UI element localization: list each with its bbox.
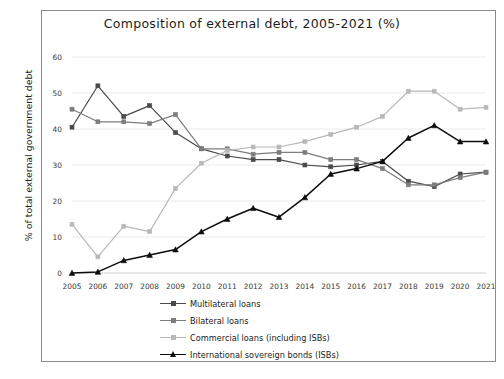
series-3 [70,89,488,259]
x-tick-label: 2021 [477,282,496,291]
legend-item-3[interactable]: Commercial loans (including ISBs) [160,331,339,344]
legend-marker-icon [160,298,186,309]
legend-label: Commercial loans (including ISBs) [190,333,330,343]
data-point [225,149,229,153]
y-tick-label: 20 [53,197,63,206]
x-axis-ticks: 2005200620072008200920102011201220132014… [63,282,496,291]
legend-marker-icon [160,315,186,326]
y-tick-label: 50 [53,89,63,98]
x-tick-label: 2017 [373,282,392,291]
data-point [250,205,256,210]
data-point [431,123,437,128]
data-point [148,104,152,108]
data-point [277,158,281,162]
data-point [432,89,436,93]
legend-label: Multilateral loans [190,299,261,309]
data-point [303,163,307,167]
data-point [329,165,333,169]
y-tick-label: 10 [53,233,63,242]
data-point [70,125,74,129]
data-point [329,158,333,162]
data-point [174,131,178,135]
data-point [96,84,100,88]
data-point [406,89,410,93]
legend-item-2[interactable]: Bilateral loans [160,314,339,327]
x-tick-label: 2016 [347,282,366,291]
legend-marker-icon [160,332,186,343]
legend-marker-icon [160,349,186,360]
data-point [70,107,74,111]
data-point [458,176,462,180]
data-point [329,132,333,136]
x-tick-label: 2011 [218,282,237,291]
data-point [406,183,410,187]
data-point [225,154,229,158]
data-point [251,145,255,149]
y-axis-ticks: 0102030405060 [53,53,63,278]
x-tick-label: 2013 [270,282,289,291]
data-point [355,125,359,129]
data-point [303,140,307,144]
data-point [96,255,100,259]
series-1 [70,84,488,189]
x-tick-label: 2015 [321,282,340,291]
data-point [458,107,462,111]
x-tick-label: 2019 [425,282,444,291]
data-point [122,120,126,124]
series-line [72,86,486,187]
data-point [174,186,178,190]
legend-label: Bilateral loans [190,316,248,326]
legend-item-1[interactable]: Multilateral loans [160,297,339,310]
data-point [355,158,359,162]
y-tick-label: 30 [53,161,63,170]
data-point [381,167,385,171]
x-tick-label: 2008 [140,282,159,291]
x-tick-label: 2014 [295,282,314,291]
legend-item-4[interactable]: International sovereign bonds (ISBs) [160,348,339,361]
data-point [303,150,307,154]
data-point [251,158,255,162]
data-point [148,122,152,126]
data-point [277,145,281,149]
x-tick-label: 2005 [63,282,82,291]
data-point [148,230,152,234]
gridlines [72,57,486,273]
data-point [122,224,126,228]
chart-legend: Multilateral loansBilateral loansCommerc… [160,297,339,361]
legend-label: International sovereign bonds (ISBs) [190,350,339,360]
data-point [277,150,281,154]
data-point [432,183,436,187]
x-tick-label: 2009 [166,282,185,291]
data-series-layer [69,84,489,276]
data-point [381,114,385,118]
data-point [174,113,178,117]
data-point [199,161,203,165]
data-point [70,222,74,226]
data-point [484,170,488,174]
x-tick-label: 2020 [451,282,470,291]
data-point [96,120,100,124]
x-tick-label: 2012 [244,282,263,291]
x-tick-label: 2007 [114,282,133,291]
series-line [72,91,486,257]
data-point [484,105,488,109]
y-tick-label: 60 [53,53,63,62]
data-point [199,147,203,151]
data-point [251,152,255,156]
x-tick-label: 2006 [88,282,107,291]
data-point [122,114,126,118]
y-tick-label: 40 [53,125,63,134]
x-tick-label: 2010 [192,282,211,291]
x-tick-label: 2018 [399,282,418,291]
y-tick-label: 0 [57,269,62,278]
